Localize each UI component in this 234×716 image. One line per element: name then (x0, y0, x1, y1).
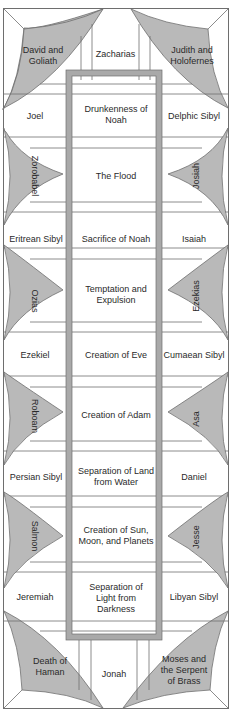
corner-bottom-right-diagonal (210, 690, 228, 708)
spandrel-left-3: Roboam (28, 386, 40, 446)
seer-left-5: Jeremiah (4, 589, 66, 605)
corner-top-right-label: Judith and Holofernes (164, 36, 220, 76)
scene-4: Separation of Land from Water (76, 462, 156, 492)
end-prophet-bottom: Jonah (91, 666, 137, 682)
scene-1: Drunkenness of Noah (76, 100, 156, 130)
corner-bottom-left-diagonal (4, 690, 22, 708)
scene-flood: The Flood (76, 168, 156, 184)
seer-right-3: Cumaean Sibyl (160, 347, 228, 363)
scene-temptation: Temptation and Expulsion (76, 280, 156, 310)
spandrel-right-3: Asa (191, 389, 203, 449)
scene-creation-adam: Creation of Adam (76, 407, 156, 423)
spandrel-right-4: Jesse (191, 507, 203, 567)
seer-right-2: Isaiah (160, 231, 228, 247)
scene-3: Creation of Eve (76, 347, 156, 363)
seer-left-2: Eritrean Sibyl (3, 231, 69, 247)
seer-right-5: Libyan Sibyl (160, 589, 228, 605)
scene-2: Sacrifice of Noah (76, 231, 156, 247)
seer-right-4: Daniel (160, 469, 228, 485)
scene-creation-sun: Creation of Sun, Moon, and Planets (76, 521, 156, 551)
spandrel-left-2: Ozias (28, 271, 40, 331)
seer-left-1: Joel (4, 108, 66, 124)
scene-5: Separation of Light from Darkness (80, 578, 152, 618)
corner-top-left-diagonal (4, 9, 24, 29)
corner-bottom-left-label: Death of Haman (24, 652, 76, 682)
spandrel-left-1: Zorobabel (28, 146, 40, 206)
seer-left-4: Persian Sibyl (3, 469, 69, 485)
spandrel-right-1: Josiah (191, 146, 203, 206)
spandrel-right-2: Ezekias (191, 266, 203, 326)
corner-top-left-label: David and Goliath (18, 36, 68, 76)
seer-right-1: Delphic Sibyl (160, 108, 228, 124)
spandrel-left-4: Salmon (28, 506, 40, 566)
corner-top-right-diagonal (208, 9, 228, 29)
seer-left-3: Ezekiel (4, 347, 66, 363)
corner-bottom-right-label: Moses and the Serpent of Brass (156, 650, 212, 690)
end-prophet-top: Zacharias (92, 46, 139, 62)
